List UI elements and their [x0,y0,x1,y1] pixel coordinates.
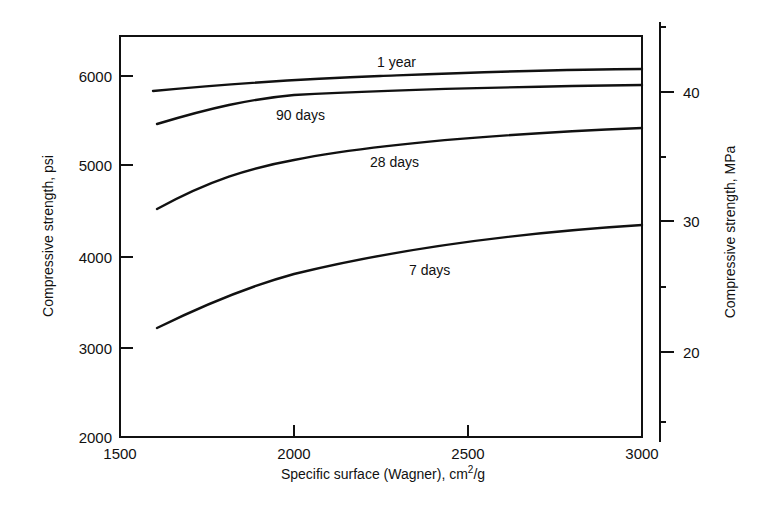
x-tick-2500: 2500 [451,445,484,462]
label-7-days: 7 days [409,262,450,278]
strength-vs-surface-chart: 6000 5000 4000 3000 2000 Compressive str… [0,0,770,506]
label-1-year: 1 year [377,54,416,70]
y-tick-5000: 5000 [79,157,112,174]
y-tick-3000: 3000 [79,340,112,357]
x-tick-2000: 2000 [277,445,310,462]
label-90-days: 90 days [276,107,325,123]
plot-frame [120,36,642,437]
y-right-axis-title: Compressive strength, MPa [722,145,738,318]
curves [153,69,642,328]
y-left-axis-title: Compressive strength, psi [40,155,56,317]
y-right-tick-30: 30 [683,213,700,230]
curve-1-year [153,69,642,91]
x-axis: 1500 2000 2500 3000 Specific surface (Wa… [103,425,658,482]
x-axis-title: Specific surface (Wagner), cm2/g [281,464,485,482]
y-tick-2000: 2000 [79,429,112,446]
curve-90-days [157,85,642,124]
y-right-tick-20: 20 [683,344,700,361]
y-right-tick-40: 40 [683,84,700,101]
label-28-days: 28 days [370,154,419,170]
y-right-axis: 40 30 20 Compressive strength, MPa [660,22,738,442]
y-tick-6000: 6000 [79,68,112,85]
x-tick-3000: 3000 [625,445,658,462]
y-tick-4000: 4000 [79,249,112,266]
x-tick-1500: 1500 [103,445,136,462]
curve-7-days [157,225,642,328]
